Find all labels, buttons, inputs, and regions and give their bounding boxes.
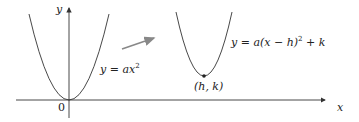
x-axis-label: x — [337, 101, 343, 114]
origin-label: 0 — [58, 101, 65, 114]
diagram-graphics — [0, 0, 359, 122]
shift-arrow — [122, 38, 154, 49]
vertex-label: (h, k) — [194, 80, 223, 93]
curve2-label: y = a(x − h)2 + k — [231, 35, 325, 49]
curve1-label: y = ax2 — [100, 62, 140, 76]
parabola-shifted — [176, 12, 232, 76]
parabola-shift-diagram: y x 0 y = ax2 y = a(x − h)2 + k (h, k) — [0, 0, 359, 122]
vertex-point — [202, 74, 206, 78]
y-axis-label: y — [56, 3, 62, 16]
